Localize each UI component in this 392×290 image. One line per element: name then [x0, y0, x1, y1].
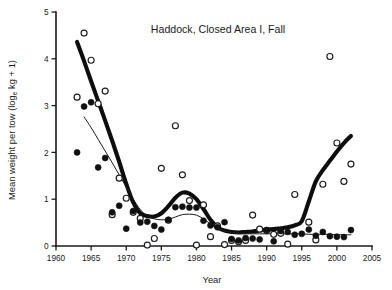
- data-point-filled: [229, 236, 235, 242]
- data-point-filled: [320, 229, 326, 235]
- y-tick-label: 2: [44, 148, 49, 158]
- series-open-circles: [74, 30, 354, 248]
- x-tick-label: 1990: [257, 253, 276, 263]
- y-axis-title-tail: kg + 1): [6, 60, 17, 92]
- data-point-open: [341, 178, 347, 184]
- data-point-open: [285, 241, 291, 247]
- data-point-filled: [292, 232, 298, 238]
- data-point-filled: [165, 217, 171, 223]
- x-tick-label: 1965: [82, 253, 101, 263]
- data-point-open: [207, 234, 213, 240]
- data-point-filled: [74, 149, 80, 155]
- data-point-filled: [257, 236, 263, 242]
- data-point-open: [144, 242, 150, 248]
- data-point-filled: [243, 235, 249, 241]
- data-point-open: [348, 161, 354, 167]
- chart-figure: 1960196519701975198019851990199520002005…: [0, 0, 392, 290]
- data-point-filled: [222, 219, 228, 225]
- data-point-filled: [95, 164, 101, 170]
- x-tick-label: 1995: [293, 253, 312, 263]
- data-point-filled: [179, 204, 185, 210]
- data-point-open: [334, 140, 340, 146]
- axes: [56, 12, 372, 246]
- data-point-filled: [264, 227, 270, 233]
- chart-title: Haddock, Closed Area I, Fall: [151, 23, 285, 35]
- data-points: [74, 30, 354, 248]
- data-point-open: [186, 198, 192, 204]
- data-point-open: [193, 242, 199, 248]
- data-point-filled: [348, 227, 354, 233]
- data-point-filled: [327, 233, 333, 239]
- data-point-filled: [116, 203, 122, 209]
- y-tick-label: 3: [44, 101, 49, 111]
- data-point-open: [222, 242, 228, 248]
- data-point-filled: [172, 204, 178, 210]
- data-point-open: [327, 53, 333, 59]
- data-point-filled: [102, 155, 108, 161]
- data-point-filled: [200, 218, 206, 224]
- data-point-filled: [236, 237, 242, 243]
- data-point-filled: [158, 227, 164, 233]
- data-point-open: [257, 226, 263, 232]
- data-point-filled: [306, 227, 312, 233]
- x-tick-label: 1985: [222, 253, 241, 263]
- data-point-filled: [313, 233, 319, 239]
- x-tick-label: 1960: [47, 253, 66, 263]
- data-point-open: [102, 88, 108, 94]
- data-point-filled: [215, 224, 221, 230]
- data-point-open: [81, 30, 87, 36]
- x-axis-title: Year: [203, 274, 222, 285]
- data-point-open: [151, 236, 157, 242]
- data-point-open: [250, 212, 256, 218]
- data-point-open: [116, 175, 122, 181]
- data-point-open: [95, 101, 101, 107]
- data-point-open: [172, 123, 178, 129]
- data-point-filled: [341, 234, 347, 240]
- x-axis-tick-labels: 1960196519701975198019851990199520002005: [47, 253, 382, 263]
- y-axis-tick-labels: 012345: [44, 7, 49, 251]
- y-axis-title: Mean weight per tow (loge kg + 1): [6, 60, 18, 200]
- y-tick-label: 1: [44, 194, 49, 204]
- data-point-open: [271, 231, 277, 237]
- data-point-filled: [250, 236, 256, 242]
- x-tick-label: 1970: [117, 253, 136, 263]
- data-point-filled: [151, 223, 157, 229]
- data-point-filled: [334, 234, 340, 240]
- data-point-open: [158, 165, 164, 171]
- data-point-filled: [186, 205, 192, 211]
- data-point-filled: [137, 220, 143, 226]
- x-tick-label: 2000: [328, 253, 347, 263]
- data-point-open: [292, 192, 298, 198]
- data-point-filled: [278, 228, 284, 234]
- data-point-filled: [81, 104, 87, 110]
- data-point-filled: [88, 99, 94, 105]
- data-point-filled: [130, 208, 136, 214]
- data-point-filled: [207, 222, 213, 228]
- data-point-open: [306, 219, 312, 225]
- y-tick-label: 0: [44, 241, 49, 251]
- data-point-filled: [109, 209, 115, 215]
- x-tick-label: 1975: [152, 253, 171, 263]
- data-point-open: [200, 202, 206, 208]
- data-point-filled: [144, 219, 150, 225]
- data-point-open: [74, 94, 80, 100]
- data-point-filled: [123, 226, 129, 232]
- y-tick-label: 4: [44, 54, 49, 64]
- x-tick-label: 1980: [187, 253, 206, 263]
- scatter-plot: 1960196519701975198019851990199520002005…: [0, 0, 392, 290]
- y-axis-title-main: Mean weight per tow (log: [6, 95, 17, 200]
- x-tick-label: 2005: [363, 253, 382, 263]
- data-point-open: [320, 181, 326, 187]
- data-point-filled: [299, 231, 305, 237]
- data-point-open: [88, 57, 94, 63]
- axis-ticks: [52, 12, 373, 251]
- data-point-filled: [271, 238, 277, 244]
- data-point-open: [179, 172, 185, 178]
- data-point-open: [123, 195, 129, 201]
- y-tick-label: 5: [44, 7, 49, 17]
- data-point-filled: [193, 205, 199, 211]
- data-point-filled: [285, 229, 291, 235]
